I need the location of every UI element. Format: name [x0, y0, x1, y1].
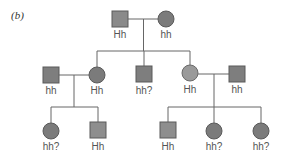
male-square-g1-father: [112, 11, 128, 27]
female-circle-g3-right-daughter-1: [206, 123, 222, 139]
genotype-label-g3-right-son: Hh: [162, 142, 175, 152]
female-circle-g2-daughter-1: [89, 67, 105, 83]
female-circle-g3-left-daughter: [43, 123, 59, 139]
genotype-label-g2-daughter-2: Hh: [184, 85, 197, 95]
male-square-g2-spouse-right: [229, 66, 245, 82]
genotype-label-g2-spouse-right: hh: [231, 85, 242, 95]
female-circle-g2-daughter-2: [182, 65, 198, 81]
genotype-label-g2-spouse-left: hh: [45, 86, 56, 96]
genotype-label-g3-right-daughter-2: hh?: [253, 142, 270, 152]
pedigree-chart: [0, 0, 283, 160]
genotype-label-g1-father: Hh: [114, 30, 127, 40]
genotype-label-g3-right-daughter-1: hh?: [206, 142, 223, 152]
female-circle-g3-right-daughter-2: [253, 123, 269, 139]
male-square-g3-left-son: [90, 122, 106, 138]
male-square-g3-right-son: [160, 122, 176, 138]
genotype-label-g3-left-daughter: hh?: [43, 142, 60, 152]
genotype-label-g2-daughter-1: Hh: [91, 86, 104, 96]
genotype-label-g2-son: hh?: [136, 86, 153, 96]
genotype-label-g3-left-son: Hh: [92, 142, 105, 152]
male-square-g2-son: [136, 66, 152, 82]
male-square-g2-spouse-left: [43, 67, 59, 83]
female-circle-g1-mother: [158, 11, 174, 27]
genotype-label-g1-mother: hh: [160, 30, 171, 40]
